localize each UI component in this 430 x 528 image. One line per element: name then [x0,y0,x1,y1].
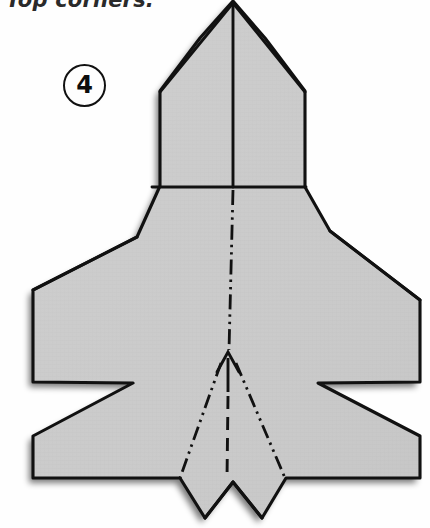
diagram-page: Top corners. [0,0,430,528]
step-number-label: 4 [76,73,93,97]
step-number-badge: 4 [63,64,106,107]
